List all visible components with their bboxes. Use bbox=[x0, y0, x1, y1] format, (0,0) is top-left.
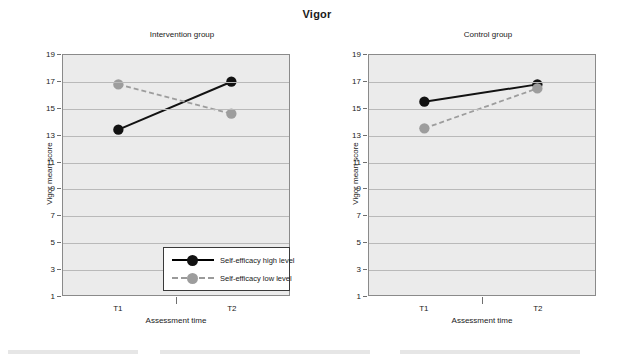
panel-intervention-group: Intervention group Vigor mean score Asse… bbox=[0, 30, 312, 342]
y-tick-mark bbox=[57, 81, 61, 82]
gridline bbox=[63, 243, 289, 244]
y-tick-label: 7 bbox=[337, 211, 361, 220]
data-point bbox=[419, 123, 429, 133]
y-tick-mark bbox=[57, 108, 61, 109]
y-tick-mark bbox=[363, 269, 367, 270]
figure-title-text: Vigor bbox=[303, 8, 332, 20]
gridline bbox=[369, 82, 595, 83]
figure-title: Vigor bbox=[0, 8, 624, 20]
data-point bbox=[226, 109, 236, 119]
x-tick-label: T2 bbox=[533, 304, 542, 313]
y-tick-label: 5 bbox=[31, 238, 55, 247]
y-tick-mark bbox=[363, 296, 367, 297]
y-tick-mark bbox=[363, 162, 367, 163]
y-tick-label: 13 bbox=[31, 130, 55, 139]
x-tick-label: T2 bbox=[227, 304, 236, 313]
y-tick-label: 15 bbox=[337, 103, 361, 112]
x-axis-title: Assessment time bbox=[338, 316, 624, 325]
legend-label-low: Self-efficacy low level bbox=[216, 274, 292, 283]
y-tick-label: 13 bbox=[337, 130, 361, 139]
y-tick-label: 3 bbox=[31, 265, 55, 274]
gridline bbox=[63, 136, 289, 137]
gridline bbox=[369, 216, 595, 217]
plot-area bbox=[368, 54, 596, 296]
y-tick-mark bbox=[57, 162, 61, 163]
y-tick-mark bbox=[363, 108, 367, 109]
y-tick-mark bbox=[363, 81, 367, 82]
gridline bbox=[63, 216, 289, 217]
y-tick-label: 9 bbox=[31, 184, 55, 193]
panel-control-group: Control group Vigor mean score Assessmen… bbox=[312, 30, 624, 342]
gridline bbox=[63, 82, 289, 83]
gridline bbox=[63, 189, 289, 190]
legend-label-high: Self-efficacy high level bbox=[216, 256, 294, 265]
legend-key-dashed-gray bbox=[170, 271, 216, 285]
legend-marker-gray-circle bbox=[187, 273, 198, 284]
gridline bbox=[369, 270, 595, 271]
page-bottom-artifact bbox=[0, 346, 624, 356]
y-axis-title: Vigor mean score bbox=[45, 134, 54, 214]
y-tick-label: 1 bbox=[31, 292, 55, 301]
y-tick-mark bbox=[363, 54, 367, 55]
gridline bbox=[369, 136, 595, 137]
y-tick-label: 11 bbox=[337, 157, 361, 166]
y-tick-label: 7 bbox=[31, 211, 55, 220]
legend: Self-efficacy high level Self-efficacy l… bbox=[163, 247, 290, 291]
y-tick-label: 11 bbox=[31, 157, 55, 166]
series-line bbox=[424, 84, 537, 101]
y-tick-label: 1 bbox=[337, 292, 361, 301]
y-tick-mark bbox=[57, 242, 61, 243]
y-tick-label: 5 bbox=[337, 238, 361, 247]
x-tick-mark bbox=[176, 297, 177, 304]
y-tick-mark bbox=[363, 215, 367, 216]
x-tick-label: T1 bbox=[113, 304, 122, 313]
y-tick-label: 17 bbox=[337, 76, 361, 85]
y-tick-label: 19 bbox=[31, 50, 55, 59]
series-layer bbox=[369, 55, 595, 295]
x-tick-label: T1 bbox=[419, 304, 428, 313]
gridline bbox=[369, 189, 595, 190]
y-tick-mark bbox=[363, 188, 367, 189]
data-point bbox=[419, 97, 429, 107]
y-tick-label: 9 bbox=[337, 184, 361, 193]
y-tick-label: 19 bbox=[337, 50, 361, 59]
gridline bbox=[369, 243, 595, 244]
y-tick-mark bbox=[57, 135, 61, 136]
legend-marker-black-circle bbox=[187, 255, 198, 266]
gridline bbox=[63, 163, 289, 164]
x-tick-mark bbox=[482, 297, 483, 304]
legend-item-high: Self-efficacy high level bbox=[170, 252, 294, 268]
data-point bbox=[113, 79, 123, 89]
y-tick-mark bbox=[363, 242, 367, 243]
y-axis-title: Vigor mean score bbox=[351, 134, 360, 214]
y-tick-mark bbox=[57, 296, 61, 297]
data-point bbox=[532, 83, 542, 93]
y-tick-mark bbox=[57, 188, 61, 189]
y-tick-mark bbox=[57, 269, 61, 270]
scan-artifact bbox=[160, 350, 370, 354]
y-tick-label: 17 bbox=[31, 76, 55, 85]
gridline bbox=[63, 109, 289, 110]
panel-title: Control group bbox=[332, 30, 624, 39]
gridline bbox=[369, 109, 595, 110]
x-axis-title: Assessment time bbox=[32, 316, 320, 325]
gridline bbox=[369, 163, 595, 164]
y-tick-mark bbox=[363, 135, 367, 136]
y-tick-mark bbox=[57, 215, 61, 216]
figure-root: Vigor Intervention group Vigor mean scor… bbox=[0, 0, 624, 356]
y-tick-mark bbox=[57, 54, 61, 55]
panel-title: Intervention group bbox=[26, 30, 338, 39]
legend-key-solid-black bbox=[170, 253, 216, 267]
legend-item-low: Self-efficacy low level bbox=[170, 270, 292, 286]
data-point bbox=[113, 125, 123, 135]
y-tick-label: 15 bbox=[31, 103, 55, 112]
scan-artifact bbox=[400, 350, 580, 354]
y-tick-label: 3 bbox=[337, 265, 361, 274]
scan-artifact bbox=[8, 350, 138, 354]
